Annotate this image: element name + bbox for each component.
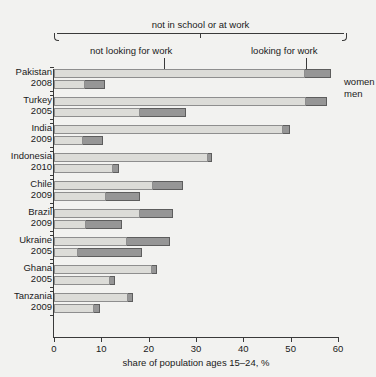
bar-india-women [54, 125, 290, 134]
country-name: India [31, 123, 52, 134]
bracket-mid-tick [200, 33, 201, 38]
y-label-brazil: Brazil2009 [28, 207, 52, 228]
bar-indonesia-women [54, 153, 212, 162]
bar-chile-women [54, 181, 183, 190]
survey-year: 2005 [23, 106, 52, 117]
y-label-tanzania: Tanzania2009 [14, 291, 52, 312]
bar-ukraine-men [54, 248, 142, 257]
survey-year: 2005 [19, 246, 52, 257]
y-label-ghana: Ghana2005 [23, 263, 52, 284]
chart-figure: issue not in school or at work not looki… [0, 0, 376, 377]
bar-pakistan-women [54, 69, 331, 78]
segment-looking-for-work [153, 181, 183, 190]
country-name: Tanzania [14, 291, 52, 302]
y-label-india: India2009 [31, 123, 52, 144]
x-tick-label: 20 [143, 343, 154, 354]
y-label-chile: Chile2009 [30, 179, 52, 200]
segment-not-looking-for-work [54, 153, 208, 162]
y-label-indonesia: Indonesia2010 [11, 151, 52, 172]
bar-brazil-women [54, 209, 173, 218]
x-tick-label: 0 [51, 343, 56, 354]
bar-turkey-women [54, 97, 327, 106]
segment-not-looking-for-work [54, 209, 140, 218]
x-tick [243, 338, 244, 342]
bar-tanzania-women [54, 293, 133, 302]
country-name: Chile [30, 179, 52, 190]
x-tick-label: 10 [96, 343, 107, 354]
annotation-not-looking-for-work: not looking for work [90, 45, 172, 56]
bracket-left-end [54, 33, 59, 41]
segment-not-looking-for-work [54, 276, 110, 285]
leader-line-looking [306, 58, 307, 69]
y-tick [50, 147, 54, 148]
survey-year: 2005 [23, 274, 52, 285]
x-tick-label: 60 [333, 343, 344, 354]
segment-not-looking-for-work [54, 80, 85, 89]
segment-looking-for-work [140, 209, 173, 218]
segment-not-looking-for-work [54, 108, 140, 117]
segment-looking-for-work [86, 220, 122, 229]
segment-looking-for-work [208, 153, 212, 162]
y-tick [50, 175, 54, 176]
y-label-pakistan: Pakistan2008 [16, 67, 52, 88]
segment-looking-for-work [113, 164, 119, 173]
segment-looking-for-work [140, 108, 186, 117]
country-name: Pakistan [16, 67, 52, 78]
x-axis-title: share of population ages 15–24, % [54, 357, 338, 368]
x-tick [149, 338, 150, 342]
leader-line-not-looking [164, 58, 165, 69]
segment-not-looking-for-work [54, 293, 128, 302]
bar-ghana-women [54, 265, 157, 274]
legend-item-women: women [344, 76, 375, 87]
annotation-looking-for-work: looking for work [251, 45, 318, 56]
segment-looking-for-work [83, 136, 103, 145]
segment-not-looking-for-work [54, 181, 153, 190]
x-tick-label: 30 [191, 343, 202, 354]
segment-not-looking-for-work [54, 164, 113, 173]
survey-year: 2010 [11, 162, 52, 173]
segment-not-looking-for-work [54, 136, 83, 145]
y-tick [50, 287, 54, 288]
bracket-right-end [342, 33, 347, 41]
legend-item-men: men [344, 88, 362, 99]
x-tick [338, 338, 339, 342]
country-name: Turkey [23, 95, 52, 106]
annotation-not-in-school-or-at-work: not in school or at work [54, 19, 347, 30]
survey-year: 2009 [31, 134, 52, 145]
y-tick [50, 119, 54, 120]
bar-ghana-men [54, 276, 115, 285]
survey-year: 2009 [30, 190, 52, 201]
y-tick [50, 259, 54, 260]
annotation-bracket [54, 33, 347, 42]
y-label-ukraine: Ukraine2005 [19, 235, 52, 256]
country-name: Indonesia [11, 151, 52, 162]
country-name: Brazil [28, 207, 52, 218]
y-tick [50, 91, 54, 92]
x-tick-label: 50 [285, 343, 296, 354]
segment-looking-for-work [94, 304, 100, 313]
segment-looking-for-work [78, 248, 142, 257]
bar-indonesia-men [54, 164, 119, 173]
cropped-headline: issue [118, 0, 145, 3]
segment-not-looking-for-work [54, 304, 94, 313]
segment-not-looking-for-work [54, 97, 306, 106]
x-tick [196, 338, 197, 342]
y-tick [50, 231, 54, 232]
segment-looking-for-work [306, 97, 327, 106]
x-tick [101, 338, 102, 342]
bar-india-men [54, 136, 103, 145]
segment-not-looking-for-work [54, 69, 305, 78]
x-tick [54, 338, 55, 342]
segment-looking-for-work [283, 125, 290, 134]
bar-chile-men [54, 192, 140, 201]
survey-year: 2009 [14, 302, 52, 313]
bar-pakistan-men [54, 80, 105, 89]
survey-year: 2008 [16, 78, 52, 89]
segment-not-looking-for-work [54, 237, 127, 246]
segment-looking-for-work [85, 80, 105, 89]
y-tick [50, 315, 54, 316]
survey-year: 2009 [28, 218, 52, 229]
segment-not-looking-for-work [54, 220, 86, 229]
y-tick [50, 203, 54, 204]
segment-looking-for-work [128, 293, 133, 302]
